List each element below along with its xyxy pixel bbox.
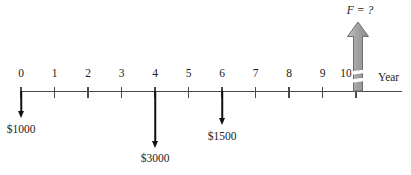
cash-outflow-arrowhead: [18, 111, 24, 118]
future-value-label: F = ?: [347, 4, 373, 16]
year-label: 1: [52, 67, 58, 79]
year-label: 8: [286, 67, 292, 79]
cash-outflow-arrowhead: [152, 141, 158, 148]
cash-flow-diagram: 012345678910$1000$3000$1500 Year F = ?: [0, 0, 411, 175]
cash-outflow-arrow-shaft: [20, 91, 22, 111]
year-label: 7: [253, 67, 259, 79]
year-label: 5: [186, 67, 192, 79]
cash-outflow-label: $3000: [141, 152, 170, 164]
tick-mark: [54, 87, 55, 98]
tick-mark: [188, 87, 189, 98]
year-label: 2: [85, 67, 91, 79]
cash-outflow-arrowhead: [219, 118, 225, 125]
tick-mark: [255, 87, 256, 98]
cash-outflow-label: $1000: [7, 123, 36, 135]
axis-unit-label: Year: [378, 71, 399, 83]
cash-outflow-arrow-shaft: [221, 91, 223, 118]
tick-mark: [322, 87, 323, 98]
cash-outflow-label: $1500: [208, 130, 237, 142]
tick-mark: [288, 87, 289, 98]
future-value-arrow: [345, 21, 372, 92]
year-label: 4: [152, 67, 158, 79]
tick-mark: [121, 87, 122, 98]
cash-outflow-arrow-shaft: [154, 91, 156, 141]
year-label: 9: [320, 67, 326, 79]
year-label: 6: [219, 67, 225, 79]
year-label: 0: [18, 67, 24, 79]
year-label: 3: [119, 67, 125, 79]
tick-mark: [87, 87, 88, 98]
